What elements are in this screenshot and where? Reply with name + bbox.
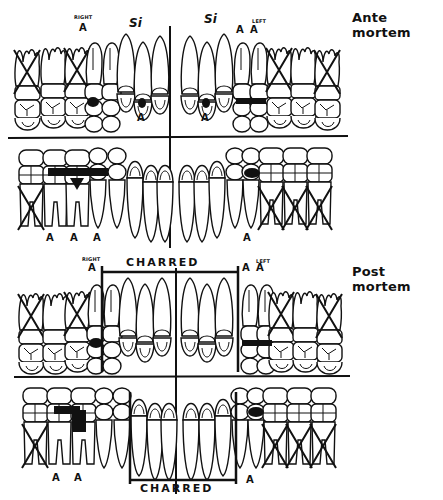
filling: [87, 97, 99, 107]
tooth-19: [259, 148, 284, 224]
tooth-26: [147, 404, 163, 481]
tooth-27: [127, 162, 143, 239]
amalgam-mark: A: [201, 112, 209, 123]
filling: [242, 340, 272, 346]
charred-label-upper: CHARRED: [126, 256, 199, 269]
tooth-1: [15, 50, 40, 130]
filling: [72, 410, 86, 432]
tooth-2: [41, 48, 66, 128]
amalgam-mark: A: [243, 232, 251, 243]
ante-mortem-chart: [8, 26, 348, 248]
tooth-18: [287, 388, 312, 464]
tooth-6: [119, 278, 137, 356]
tooth-3: [65, 292, 90, 372]
tooth-9: [181, 278, 199, 356]
tooth-31: [47, 388, 72, 464]
tooth-27: [131, 400, 147, 477]
tooth-15: [291, 48, 316, 128]
tooth-16: [317, 294, 342, 374]
amalgam-mark: A: [46, 232, 54, 243]
si-label-left: Si: [204, 12, 217, 26]
tooth-15: [293, 292, 318, 372]
amalgam-mark: A: [256, 262, 264, 273]
tooth-22: [209, 162, 225, 239]
tooth-8: [153, 278, 171, 356]
charred-label-lower: CHARRED: [140, 482, 213, 495]
tooth-26: [143, 166, 159, 243]
filling: [202, 98, 210, 108]
occlusal-line: [8, 136, 348, 138]
lower-arch: [18, 148, 332, 242]
tooth-17: [307, 148, 332, 224]
tooth-14: [267, 48, 292, 128]
tooth-23: [199, 404, 215, 481]
tooth-24: [183, 404, 199, 481]
amalgam-mark: A: [52, 472, 60, 483]
upper-arch: [14, 34, 340, 132]
tooth-20: [247, 388, 265, 468]
tooth-21: [231, 388, 249, 468]
tooth-1: [19, 294, 44, 374]
tooth-11: [215, 278, 233, 356]
tooth-32: [23, 388, 48, 464]
tooth-22: [215, 400, 231, 477]
tooth-16: [315, 50, 340, 130]
tooth-23: [194, 166, 210, 243]
amalgam-mark: A: [246, 474, 254, 485]
tooth-24: [179, 166, 195, 243]
amalgam-mark: A: [242, 262, 250, 273]
right-side-label: RIGHT: [74, 14, 92, 20]
tooth-29: [95, 388, 113, 468]
filling: [48, 168, 108, 176]
occlusal-line: [14, 376, 350, 377]
amalgam-mark: A: [236, 24, 244, 35]
tooth-19: [263, 388, 288, 464]
post-mortem-chart: [14, 266, 350, 494]
tooth-6: [117, 34, 135, 112]
filling: [244, 168, 260, 178]
tooth-10: [198, 42, 216, 120]
amalgam-mark: A: [70, 232, 78, 243]
tooth-25: [161, 404, 177, 481]
tooth-18: [283, 148, 308, 224]
upper-arch: [18, 278, 342, 374]
tooth-21: [226, 148, 244, 228]
dental-chart: [0, 0, 443, 500]
tooth-31: [43, 150, 68, 226]
filling: [236, 98, 266, 104]
amalgam-mark: A: [250, 24, 258, 35]
si-label-right: Si: [129, 16, 142, 30]
amalgam-mark: A: [93, 232, 101, 243]
tooth-32: [19, 150, 44, 226]
tooth-28: [113, 388, 131, 468]
tooth-14: [269, 292, 294, 372]
amalgam-mark: A: [137, 112, 145, 123]
tooth-29: [89, 148, 107, 228]
amalgam-mark: A: [79, 22, 87, 33]
tooth-11: [215, 34, 233, 112]
tooth-7: [136, 284, 154, 362]
filling: [138, 98, 146, 108]
tooth-28: [108, 148, 126, 228]
tooth-7: [134, 42, 152, 120]
section-title-ante-mortem: Ante mortem: [352, 10, 443, 40]
filling: [248, 407, 264, 417]
tooth-9: [181, 36, 199, 114]
lower-arch: [22, 388, 336, 480]
section-title-post-mortem: Post mortem: [352, 264, 443, 294]
tooth-12: [233, 43, 252, 132]
tooth-10: [198, 284, 216, 362]
tooth-13: [250, 43, 269, 132]
tooth-8: [151, 36, 169, 114]
tooth-4: [85, 43, 104, 132]
amalgam-mark: A: [74, 472, 82, 483]
amalgam-mark: A: [88, 262, 96, 273]
tooth-20: [242, 148, 260, 228]
tooth-17: [311, 388, 336, 464]
